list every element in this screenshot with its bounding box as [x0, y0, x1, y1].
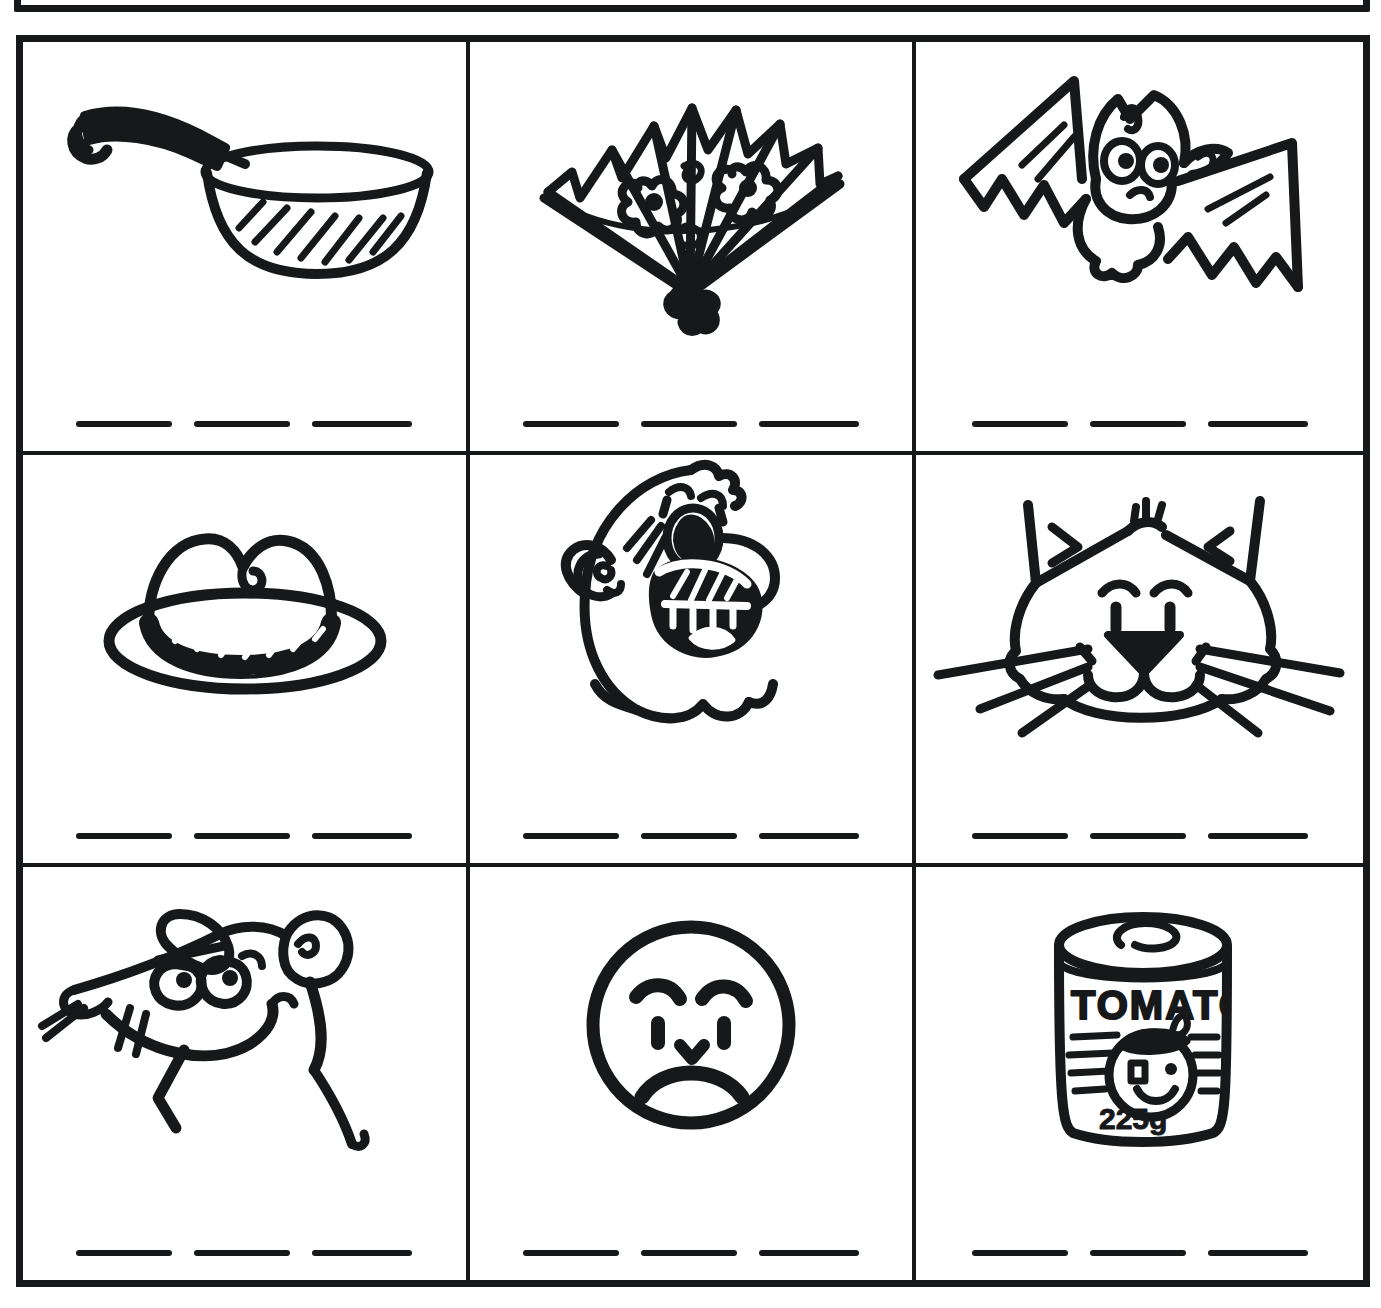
hat-icon [23, 455, 466, 774]
grid-cell-sad[interactable]: sad [470, 867, 917, 1280]
can-label-text: TOMATO [1071, 983, 1252, 1027]
blank-line[interactable] [312, 1250, 412, 1256]
blank-line[interactable] [1208, 833, 1308, 839]
blank-line[interactable] [76, 421, 172, 427]
blank-line[interactable] [523, 1250, 619, 1256]
cat-face-icon [916, 455, 1363, 774]
answer-lines[interactable] [916, 421, 1363, 427]
blank-line[interactable] [523, 421, 619, 427]
answer-lines[interactable] [23, 1250, 466, 1256]
blank-line[interactable] [972, 1250, 1068, 1256]
grid-cell-man[interactable]: man [470, 455, 917, 868]
blank-line[interactable] [759, 833, 859, 839]
blank-line[interactable] [76, 833, 172, 839]
blank-line[interactable] [1208, 1250, 1308, 1256]
blank-line[interactable] [1090, 421, 1186, 427]
blank-line[interactable] [1090, 1250, 1186, 1256]
blank-line[interactable] [312, 833, 412, 839]
picture-grid: pan [16, 35, 1370, 1287]
folding-fan-icon [470, 42, 913, 361]
answer-lines[interactable] [916, 1250, 1363, 1256]
saucepan-icon [23, 42, 466, 361]
grid-cell-hat[interactable]: hat [23, 455, 470, 868]
blank-line[interactable] [312, 421, 412, 427]
blank-line[interactable] [641, 833, 737, 839]
grid-cell-bat[interactable]: bat [916, 42, 1363, 455]
answer-lines[interactable] [470, 1250, 913, 1256]
tomato-can-icon: TOMATO [916, 867, 1363, 1189]
previous-exercise-box-edge [14, 0, 1370, 12]
worksheet-page: pan [0, 0, 1381, 1308]
blank-line[interactable] [641, 1250, 737, 1256]
answer-lines[interactable] [23, 421, 466, 427]
bat-icon [916, 42, 1363, 361]
blank-line[interactable] [194, 1250, 290, 1256]
blank-line[interactable] [194, 833, 290, 839]
rat-icon [23, 867, 466, 1189]
answer-lines[interactable] [470, 421, 913, 427]
blank-line[interactable] [1090, 833, 1186, 839]
sad-face-icon [470, 867, 913, 1189]
answer-lines[interactable] [23, 833, 466, 839]
blank-line[interactable] [641, 421, 737, 427]
can-weight-text: 225g [1099, 1102, 1167, 1135]
grid-cell-can[interactable]: can [916, 867, 1363, 1280]
blank-line[interactable] [759, 421, 859, 427]
blank-line[interactable] [1208, 421, 1308, 427]
answer-lines[interactable] [470, 833, 913, 839]
grid-cell-pan[interactable]: pan [23, 42, 470, 455]
blank-line[interactable] [759, 1250, 859, 1256]
blank-line[interactable] [972, 833, 1068, 839]
blank-line[interactable] [972, 421, 1068, 427]
grid-cell-cat[interactable]: cat [916, 455, 1363, 868]
laughing-man-face-icon [470, 455, 913, 774]
blank-line[interactable] [76, 1250, 172, 1256]
grid-cell-fan[interactable]: fan [470, 42, 917, 455]
blank-line[interactable] [194, 421, 290, 427]
answer-lines[interactable] [916, 833, 1363, 839]
blank-line[interactable] [523, 833, 619, 839]
grid-cell-rat[interactable]: rat [23, 867, 470, 1280]
